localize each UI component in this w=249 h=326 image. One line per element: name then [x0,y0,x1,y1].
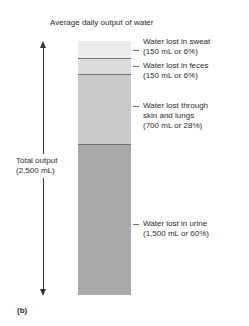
arrow-down-icon [40,289,46,296]
segment-urine [78,145,131,295]
total-output-line1: Total output [16,156,57,166]
label-feces: Water lost in feces (150 mL or 6%) [143,61,209,81]
leader-line-sweat [133,50,139,51]
label-skin-lungs-line1: Water lost through [143,101,208,111]
label-feces-line2: (150 mL or 6%) [143,71,209,81]
segment-feces [78,59,131,74]
leader-line-skin-lungs [133,106,139,107]
label-feces-line1: Water lost in feces [143,61,209,71]
leader-line-urine [133,224,139,225]
label-sweat-line2: (150 mL or 6%) [143,47,210,57]
total-output-label: Total output (2,500 mL) [16,154,57,178]
label-sweat: Water lost in sweat (150 mL or 6%) [143,37,210,57]
panel-label: (b) [17,306,27,315]
label-urine-line1: Water lost in urine [143,219,209,229]
segment-sweat [78,41,131,58]
diagram-title: Average daily output of water [50,18,153,27]
label-skin-lungs: Water lost through skin and lungs (700 m… [143,101,208,131]
label-sweat-line1: Water lost in sweat [143,37,210,47]
stacked-output-bar [78,41,131,295]
label-urine: Water lost in urine (1,500 mL or 60%) [143,219,209,239]
total-output-line2: (2,500 mL) [16,166,57,176]
label-skin-lungs-line3: (700 mL or 28%) [143,121,208,131]
label-urine-line2: (1,500 mL or 60%) [143,229,209,239]
label-skin-lungs-line2: skin and lungs [143,111,208,121]
segment-skin-lungs [78,75,131,144]
leader-line-feces [133,66,139,67]
